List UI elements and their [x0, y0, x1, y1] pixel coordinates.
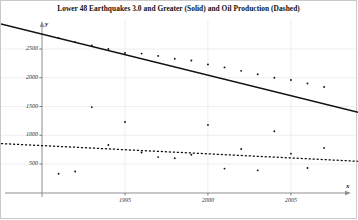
- y-axis-label: y: [45, 20, 48, 28]
- x-tick-label: 2005: [280, 197, 302, 203]
- x-tick-label: 1995: [114, 197, 136, 203]
- chart-plot-area: [1, 1, 358, 220]
- fit-lines: [1, 24, 358, 161]
- x-tick-label: 2000: [197, 197, 219, 203]
- y-tick-label: 1500: [4, 103, 38, 109]
- y-tick-label: 2500: [4, 45, 38, 51]
- axes: [5, 21, 351, 197]
- data-points: [58, 37, 325, 175]
- gridlines: [1, 19, 358, 193]
- y-tick-label: 500: [4, 160, 38, 166]
- x-axis-label: x: [346, 182, 350, 190]
- y-tick-label: 1000: [4, 131, 38, 137]
- y-tick-label: 2000: [4, 74, 38, 80]
